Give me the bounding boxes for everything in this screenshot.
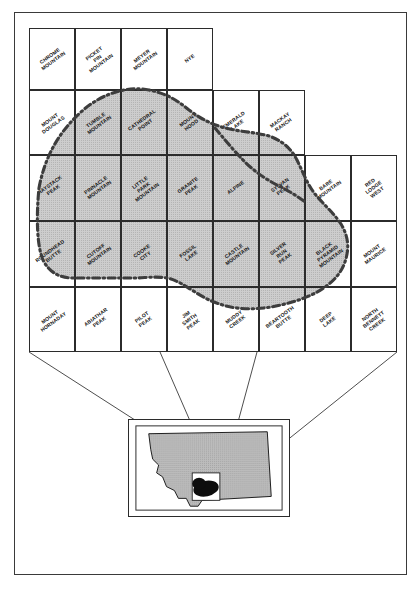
quad-cell[interactable]: BLACK PYRAMID MOUNTAIN <box>305 221 351 287</box>
montana-inset-map <box>129 420 289 516</box>
quad-cell[interactable]: MOUNT HOOD <box>167 90 213 155</box>
locator-inset[interactable] <box>128 419 290 517</box>
study-area-marker-lobe <box>192 478 206 490</box>
quad-label: RED LODGE WEST <box>360 174 388 201</box>
quad-cell[interactable]: COOKE CITY <box>121 221 167 287</box>
quad-cell[interactable]: PILOT PEAK <box>121 287 167 352</box>
quad-cell[interactable]: ALPINE <box>213 155 259 221</box>
quad-cell[interactable]: DEEP LAKE <box>305 287 351 352</box>
quad-label: CASTLE MOUNTAIN <box>221 241 251 267</box>
quad-cell[interactable]: JIM SMITH PEAK <box>167 287 213 352</box>
quad-cell[interactable]: FOSSIL LAKE <box>167 221 213 287</box>
quad-label: MOUNT DOUGLAS <box>38 110 67 135</box>
quad-label: DEEP LAKE <box>319 310 338 328</box>
quad-label: MACKAY RANCH <box>269 111 294 134</box>
quad-label: MOUNT HORNADAY <box>36 306 67 333</box>
quad-label: MUDDY CREEK <box>225 309 248 330</box>
quad-cell[interactable]: MOUNT MAURICE <box>351 221 397 287</box>
quad-label: BLACK PYRAMID MOUNTAIN <box>311 238 344 269</box>
quad-label: PINNACLE MOUNTAIN <box>83 175 113 201</box>
quad-label: TUMBLE MOUNTAIN <box>83 109 113 135</box>
quad-label: ROUNDHEAD BUTTE <box>35 239 70 269</box>
quad-label: ALPINE <box>226 180 245 196</box>
quad-label: JIM SMITH PEAK <box>176 306 204 333</box>
quad-cell[interactable]: MOUNT HORNADAY <box>29 287 75 352</box>
quad-cell[interactable]: RED LODGE WEST <box>351 155 397 221</box>
quad-label: CATHEDRAL POINT <box>127 108 160 137</box>
quad-cell[interactable]: TUMBLE MOUNTAIN <box>75 90 121 155</box>
quad-cell[interactable]: EMERALD LAKE <box>213 90 259 155</box>
map-figure: CHROME MOUNTAIN PICKET PIN MOUNTAIN MEYE… <box>0 0 420 595</box>
quad-cell[interactable]: HAYSTACK PEAK <box>29 155 75 221</box>
quad-label: LITTLE PARK MOUNTAIN <box>127 172 160 203</box>
quad-cell[interactable]: ABIATHAR PEAK <box>75 287 121 352</box>
quad-cell[interactable]: GRANITE PEAK <box>167 155 213 221</box>
quad-cell[interactable]: MUDDY CREEK <box>213 287 259 352</box>
quad-cell[interactable]: MACKAY RANCH <box>259 90 305 155</box>
quad-cell[interactable]: LITTLE PARK MOUNTAIN <box>121 155 167 221</box>
quad-label: BARE MOUNTAIN <box>313 175 343 201</box>
quad-label: NORTH BENNETT CREEK <box>359 305 390 334</box>
quad-label: NYE <box>184 53 196 64</box>
quad-cell[interactable]: MOUNT DOUGLAS <box>29 90 75 155</box>
quad-cell[interactable]: PINNACLE MOUNTAIN <box>75 155 121 221</box>
quad-label: PICKET PIN MOUNTAIN <box>81 43 114 74</box>
quad-cell[interactable]: MEYER MOUNTAIN <box>121 28 167 90</box>
quad-label: PILOT PEAK <box>134 310 154 329</box>
quad-cell[interactable]: CUTOFF MOUNTAIN <box>75 221 121 287</box>
quad-cell[interactable]: BEARTOOTH BUTTE <box>259 287 305 352</box>
quad-cell[interactable]: NYE <box>167 28 213 90</box>
quad-label: ABIATHAR PEAK <box>83 307 112 333</box>
quad-label: SYLVAN PEAK <box>270 177 294 199</box>
quad-label: GRANITE PEAK <box>177 176 203 200</box>
quad-label: MOUNT HOOD <box>179 112 202 133</box>
quad-label: SILVER RUN PEAK <box>268 240 296 267</box>
quad-cell[interactable]: CATHEDRAL POINT <box>121 90 167 155</box>
quad-cell[interactable]: PICKET PIN MOUNTAIN <box>75 28 121 90</box>
quad-label: BEARTOOTH BUTTE <box>265 305 299 334</box>
quad-label: MEYER MOUNTAIN <box>129 46 159 72</box>
quad-label: CHROME MOUNTAIN <box>37 46 67 72</box>
quad-label: CUTOFF MOUNTAIN <box>83 241 113 267</box>
quad-label: HAYSTACK PEAK <box>37 175 67 202</box>
quad-cell[interactable]: NORTH BENNETT CREEK <box>351 287 397 352</box>
quad-label: FOSSIL LAKE <box>179 243 202 264</box>
quad-cell[interactable]: BARE MOUNTAIN <box>305 155 351 221</box>
quad-cell[interactable]: CASTLE MOUNTAIN <box>213 221 259 287</box>
quad-label: MOUNT MAURICE <box>360 242 387 266</box>
quad-label: COOKE CITY <box>133 243 156 264</box>
quad-cell[interactable]: CHROME MOUNTAIN <box>29 28 75 90</box>
quadrangle-grid: CHROME MOUNTAIN PICKET PIN MOUNTAIN MEYE… <box>29 28 397 352</box>
quad-cell[interactable]: SILVER RUN PEAK <box>259 221 305 287</box>
quad-cell[interactable]: ROUNDHEAD BUTTE <box>29 221 75 287</box>
quad-cell[interactable]: SYLVAN PEAK <box>259 155 305 221</box>
quad-label: EMERALD LAKE <box>222 110 250 135</box>
